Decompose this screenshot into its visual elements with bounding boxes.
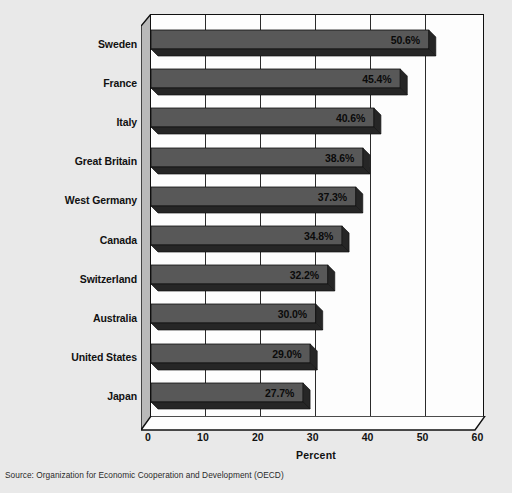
x-axis-title: Percent <box>141 449 491 461</box>
x-axis-ticks: 0102030405060 <box>141 431 491 447</box>
bar-value-great-britain: 38.6% <box>325 152 354 164</box>
bars-layer: 50.6%45.4%40.6%38.6%37.3%34.8%32.2%30.0%… <box>141 12 491 432</box>
category-axis-labels: SwedenFranceItalyGreat BritainWest Germa… <box>0 14 141 420</box>
category-label-italy: Italy <box>0 117 137 128</box>
bar-value-japan: 27.7% <box>265 387 294 399</box>
bar-value-west-germany: 37.3% <box>318 191 347 203</box>
category-label-japan: Japan <box>0 391 137 402</box>
category-label-australia: Australia <box>0 313 137 324</box>
plot-area: 50.6%45.4%40.6%38.6%37.3%34.8%32.2%30.0%… <box>141 12 491 432</box>
bar-value-france: 45.4% <box>362 73 391 85</box>
x-tick-30: 30 <box>307 431 319 443</box>
bar-value-australia: 30.0% <box>278 308 307 320</box>
category-label-sweden: Sweden <box>0 39 137 50</box>
x-tick-40: 40 <box>362 431 374 443</box>
category-label-west-germany: West Germany <box>0 195 137 206</box>
x-tick-50: 50 <box>417 431 429 443</box>
category-label-switzerland: Switzerland <box>0 274 137 285</box>
x-tick-20: 20 <box>252 431 264 443</box>
x-tick-0: 0 <box>145 431 151 443</box>
category-label-france: France <box>0 78 137 89</box>
category-label-canada: Canada <box>0 235 137 246</box>
x-tick-10: 10 <box>197 431 209 443</box>
bar-value-canada: 34.8% <box>304 230 333 242</box>
bar-value-united-states: 29.0% <box>272 348 301 360</box>
bar-value-sweden: 50.6% <box>391 34 420 46</box>
category-label-great-britain: Great Britain <box>0 156 137 167</box>
bar-value-switzerland: 32.2% <box>290 269 319 281</box>
chart-figure: SwedenFranceItalyGreat BritainWest Germa… <box>0 0 512 493</box>
bar-value-italy: 40.6% <box>336 112 365 124</box>
category-label-united-states: United States <box>0 352 137 363</box>
x-tick-60: 60 <box>472 431 484 443</box>
source-note: Source: Organization for Economic Cooper… <box>5 470 284 480</box>
